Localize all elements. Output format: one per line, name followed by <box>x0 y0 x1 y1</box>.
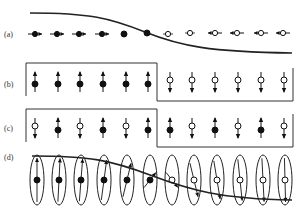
orbital <box>52 155 66 205</box>
filled-spin-dot <box>34 177 40 183</box>
spin <box>55 117 61 138</box>
spin <box>100 71 106 92</box>
spin <box>95 31 109 36</box>
arrow-right-icon <box>106 32 110 36</box>
spin-row-c <box>32 117 287 139</box>
spin-diagram: (a) (b) (c) (d) <box>0 0 303 209</box>
orbital <box>143 155 157 205</box>
open-spin-dot <box>234 30 239 35</box>
open-spin-dot <box>235 77 241 83</box>
spin <box>212 117 218 138</box>
filled-spin-dot <box>144 30 150 36</box>
orbital <box>30 155 44 205</box>
spin <box>77 71 83 92</box>
open-spin-dot <box>235 123 241 129</box>
spin <box>254 30 268 35</box>
orbital-row-d <box>30 155 292 205</box>
arrow-down-icon <box>213 88 217 93</box>
spin <box>163 31 173 36</box>
spin-arrow-icon <box>80 159 84 163</box>
arrow-left-icon <box>230 31 234 35</box>
panel-c-label: (c) <box>4 124 13 133</box>
spin <box>32 118 38 139</box>
spin <box>144 30 150 36</box>
filled-spin-dot <box>145 127 151 133</box>
filled-spin-dot <box>55 127 61 133</box>
filled-spin-dot <box>54 31 59 36</box>
panel-d-label: (d) <box>4 153 14 162</box>
open-spin-dot <box>260 177 266 183</box>
arrow-right-icon <box>83 32 87 36</box>
panel-a: (a) <box>4 13 292 53</box>
spin <box>145 71 151 92</box>
open-spin-dot <box>280 30 285 35</box>
open-spin-dot <box>237 177 243 183</box>
filled-spin-dot <box>32 81 38 87</box>
panel-b-label: (b) <box>4 80 14 89</box>
spin <box>100 117 106 138</box>
panel-c: (c) <box>4 109 293 147</box>
arrow-up-icon <box>146 71 150 76</box>
spin <box>276 30 290 35</box>
panel-b: (b) <box>4 63 293 101</box>
arrow-up-icon <box>78 71 82 76</box>
spin <box>258 117 264 138</box>
open-spin-dot <box>214 177 220 183</box>
arrow-down-icon <box>33 134 37 139</box>
arrow-down-icon <box>124 134 128 139</box>
arrow-down-icon <box>78 134 82 139</box>
potential-curve-d <box>32 156 292 200</box>
orbital <box>210 155 224 205</box>
arrow-up-icon <box>33 71 37 76</box>
spin <box>72 31 86 36</box>
arrow-right-icon <box>39 32 43 36</box>
spin <box>185 30 195 35</box>
arrow-up-icon <box>146 117 150 122</box>
arrow-down-icon <box>168 88 172 93</box>
spin <box>189 118 195 139</box>
spin <box>123 118 129 139</box>
filled-spin-dot <box>100 81 106 87</box>
arrow-up-icon <box>213 117 217 122</box>
filled-spin-dot <box>100 127 106 133</box>
filled-spin-dot <box>55 81 61 87</box>
spin <box>235 72 241 93</box>
spin <box>123 71 129 92</box>
open-spin-dot <box>212 77 218 83</box>
arrow-down-icon <box>236 88 240 93</box>
open-spin-dot <box>189 77 195 83</box>
spin <box>77 118 83 139</box>
spin <box>212 72 218 93</box>
open-spin-dot <box>258 30 263 35</box>
filled-spin-dot <box>124 177 130 183</box>
spin <box>50 31 64 36</box>
filled-spin-dot <box>258 127 264 133</box>
arrow-down-icon <box>282 134 286 139</box>
filled-spin-dot <box>76 31 81 36</box>
filled-spin-dot <box>145 81 151 87</box>
spin <box>167 72 173 93</box>
spin-arrow-icon <box>195 192 199 196</box>
open-spin-dot <box>187 30 192 35</box>
spin <box>230 30 244 35</box>
filled-spin-dot <box>123 81 129 87</box>
arrow-down-icon <box>190 88 194 93</box>
spin <box>235 118 241 139</box>
arrow-left-icon <box>208 31 212 35</box>
filled-spin-dot <box>99 31 104 36</box>
spin <box>208 30 222 35</box>
step-potential-b <box>26 63 293 101</box>
arrow-left-icon <box>276 31 280 35</box>
arrow-up-icon <box>56 71 60 76</box>
arrow-up-icon <box>56 117 60 122</box>
filled-spin-dot <box>147 177 153 183</box>
open-spin-dot <box>77 123 83 129</box>
orbital <box>74 155 88 205</box>
potential-curve-a <box>30 13 292 53</box>
open-spin-dot <box>167 77 173 83</box>
filled-spin-dot <box>78 177 84 183</box>
spin <box>55 71 61 92</box>
spin <box>28 31 42 36</box>
open-spin-dot <box>282 177 288 183</box>
filled-spin-dot <box>56 177 62 183</box>
